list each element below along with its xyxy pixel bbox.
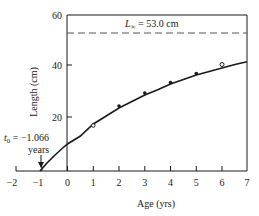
svg-text:20: 20 — [52, 112, 62, 123]
svg-text:60: 60 — [52, 10, 62, 21]
data-point-age-3 — [143, 91, 147, 95]
svg-text:1: 1 — [91, 177, 96, 188]
svg-text:7: 7 — [245, 177, 250, 188]
svg-text:years: years — [28, 144, 49, 155]
growth-curve-line — [40, 62, 247, 171]
svg-text:5: 5 — [194, 177, 199, 188]
plot-frame — [16, 15, 247, 171]
data-point-age-1 — [92, 124, 96, 128]
svg-text:0: 0 — [65, 177, 70, 188]
svg-text:3: 3 — [142, 177, 147, 188]
growth-chart: −2 −1 0 1 2 3 4 5 6 7 20 40 60 Age (yrs)… — [0, 0, 259, 216]
svg-text:6: 6 — [220, 177, 225, 188]
y-ticks — [67, 65, 72, 117]
y-axis-title: Length (cm) — [28, 67, 40, 117]
y-tick-labels: 20 40 60 — [52, 10, 62, 123]
t0-annotation: t0 = −1.066 years — [4, 132, 49, 168]
l-infinity-label: L∞ = 53.0 cm — [124, 18, 179, 31]
data-point-age-6 — [220, 63, 224, 67]
data-point-age-4 — [169, 81, 173, 85]
x-tick-labels: −2 −1 0 1 2 3 4 5 6 7 — [7, 177, 250, 188]
svg-text:−2: −2 — [7, 177, 18, 188]
data-point-age-2 — [117, 104, 121, 108]
data-point-age-5 — [195, 72, 199, 76]
svg-text:4: 4 — [168, 177, 173, 188]
svg-text:2: 2 — [117, 177, 122, 188]
x-axis-title: Age (yrs) — [137, 198, 175, 210]
x-ticks — [16, 166, 222, 171]
svg-text:40: 40 — [52, 60, 62, 71]
svg-text:−1: −1 — [33, 177, 44, 188]
